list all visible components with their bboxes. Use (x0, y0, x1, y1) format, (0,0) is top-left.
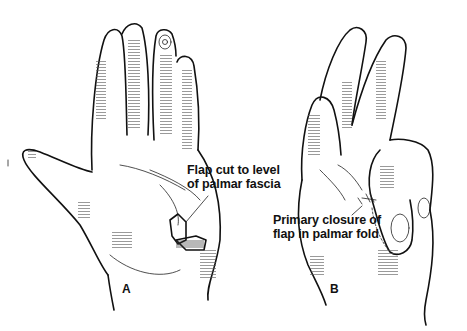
callout-a: Flap cut to level of palmar fascia (187, 163, 281, 191)
callout-b: Primary closure of flap in palmar fold (273, 213, 381, 241)
callout-b-line1: Primary closure of (273, 213, 381, 227)
panel-letter-a: A (122, 282, 131, 296)
hand-b-drawing (299, 28, 433, 325)
callout-b-line2: flap in palmar fold (273, 227, 381, 241)
callout-a-line1: Flap cut to level (187, 163, 281, 177)
panel-letter-b: B (330, 282, 339, 296)
figure-canvas: Flap cut to level of palmar fascia Prima… (0, 0, 467, 331)
callout-a-line2: of palmar fascia (187, 177, 281, 191)
